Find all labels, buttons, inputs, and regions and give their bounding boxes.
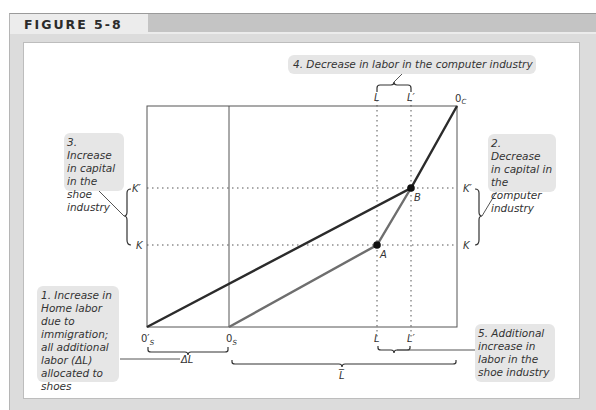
delta-L-label: ΔL	[180, 354, 193, 365]
origin-shoes-label: 0S	[226, 333, 237, 347]
callout-4-labor-computer: 4. Decrease in labor in the computer ind…	[288, 55, 536, 74]
callout-1-immigration: 1. Increase in Home labor due to immigra…	[37, 286, 119, 382]
K-prime-left-label: K′	[132, 183, 142, 194]
origin-computers-label: 0C	[455, 93, 466, 106]
L-prime-bottom-label: L′	[407, 333, 416, 344]
callout-3-capital-shoe: 3. Increase in capital in the shoe indus…	[64, 133, 124, 191]
point-B-marker	[407, 184, 415, 192]
L-bottom-label: L	[374, 333, 380, 344]
callout-2-capital-computer: 2. Decrease in capital in the computer i…	[488, 134, 556, 192]
K-left-label: K	[136, 240, 144, 251]
K-prime-right-label: K′	[463, 183, 473, 194]
L-prime-top-label: L′	[407, 92, 416, 103]
point-A-label: A	[379, 249, 387, 260]
left-capital-brace	[124, 189, 131, 245]
total-labor-brace	[232, 360, 456, 367]
K-right-label: K	[463, 240, 471, 251]
origin-shoes-new-label: 0′S	[141, 333, 155, 347]
right-capital-brace	[475, 189, 482, 245]
callout-5-labor-shoe: 5. Additional increase in labor in the s…	[475, 324, 555, 382]
L-top-label: L	[374, 92, 380, 103]
point-B-label: B	[414, 192, 421, 203]
L-bar-label: L̅	[338, 369, 345, 381]
point-A-marker	[373, 241, 381, 249]
top-labor-brace	[377, 82, 411, 92]
